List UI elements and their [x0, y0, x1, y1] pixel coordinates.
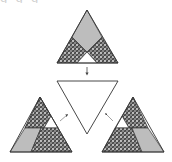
target-triangle	[57, 81, 118, 134]
right-variant-triangle	[102, 97, 164, 152]
source-triangle	[57, 10, 118, 63]
left-variant-triangle	[10, 97, 72, 152]
right-small-arrow	[106, 114, 113, 121]
left-small-arrow	[60, 115, 67, 121]
diagram-canvas	[0, 0, 172, 162]
